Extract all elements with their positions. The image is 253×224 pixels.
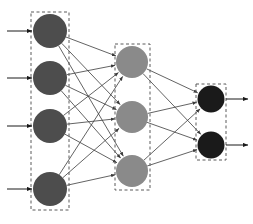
connection-edge [147, 150, 197, 166]
connection-edge [143, 74, 201, 135]
connection-edge [67, 119, 115, 124]
connection-edge [146, 69, 197, 93]
connection-edge [147, 122, 197, 140]
input-node-1 [33, 14, 67, 48]
neuron-nodes [33, 14, 225, 206]
output-node-2 [198, 132, 225, 159]
connection-edge [59, 46, 124, 156]
input-node-4 [33, 172, 67, 206]
connection-edge [65, 134, 117, 163]
input-node-3 [33, 109, 67, 143]
connection-edge [63, 128, 119, 177]
neural-network-canvas [0, 0, 253, 224]
hidden-node-1 [116, 46, 148, 78]
output-node-1 [198, 86, 225, 113]
input-node-2 [33, 61, 67, 95]
connection-edge [144, 109, 200, 160]
neural-network-diagram [0, 0, 253, 224]
connection-edge [66, 37, 116, 56]
hidden-node-3 [116, 155, 148, 187]
hidden-node-2 [116, 101, 148, 133]
connection-edge [67, 175, 116, 186]
